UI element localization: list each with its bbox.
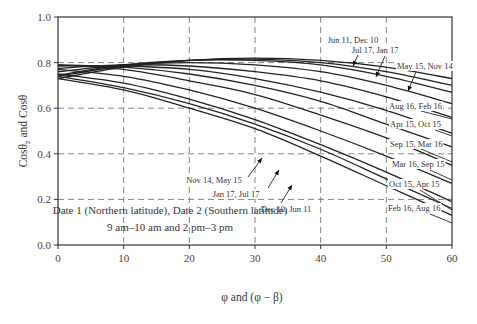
x-tick-label: 40 [315, 252, 327, 264]
curve-annotation-label: Jan 17, Jul 17 [213, 189, 260, 199]
x-tick-label: 10 [118, 252, 130, 264]
x-tick-label: 20 [184, 252, 196, 264]
y-tick-label: 0.0 [37, 239, 51, 251]
curve-annotation-label: Jun 11, Dec 10 [328, 35, 379, 45]
note-line-1: Date 1 (Northern latitude), Date 2 (Sout… [53, 204, 288, 217]
y-tick-label: 0.2 [37, 193, 51, 205]
curve-annotation-label: Oct 15, Apr 15 [389, 179, 440, 189]
curve-annotation-label: Jul 17, Jan 17 [352, 45, 399, 55]
curve-annotation-label: May 15, Nov 14 [397, 61, 453, 71]
curve-annotation-label: Mar 16, Sep 15 [392, 159, 444, 169]
y-tick-label: 0.8 [37, 57, 51, 69]
note-line-2: 9 am–10 am and 2 pm–3 pm [107, 221, 233, 233]
chart: 01020304050600.00.20.40.60.81.0 Jun 11, … [0, 0, 477, 324]
y-tick-label: 1.0 [37, 11, 51, 23]
curve-annotation-label: Feb 16, Aug 16 [388, 203, 440, 213]
y-tick-label: 0.6 [37, 102, 51, 114]
arrow-head-icon [287, 185, 292, 190]
y-tick-label: 0.4 [37, 148, 51, 160]
curve-annotation-label: Sep 15, Mar 16 [390, 139, 442, 149]
curve-annotation-label: Apr 15, Oct 15 [390, 119, 441, 129]
x-tick-label: 0 [55, 252, 61, 264]
x-axis-label: φ and (φ − β) [221, 291, 283, 304]
x-tick-label: 30 [250, 252, 262, 264]
curve-annotation-label: Aug 16, Feb 16 [389, 101, 442, 111]
x-tick-label: 50 [381, 252, 393, 264]
arrow-head-icon [274, 170, 279, 175]
curve-annotation-label: Nov 14, May 15 [186, 175, 242, 185]
x-tick-label: 60 [447, 252, 459, 264]
annotation-leader [430, 214, 452, 223]
arrow-head-icon [257, 158, 262, 163]
y-axis-label: Cosθz and Cosθ [17, 94, 32, 167]
